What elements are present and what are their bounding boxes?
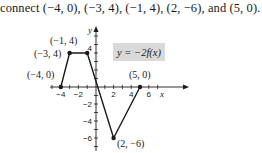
y-tick-label: −2 [83, 100, 93, 109]
point-marker [85, 51, 89, 55]
x-tick-label: 4 [129, 90, 134, 99]
x-tick-label: −4 [56, 90, 66, 99]
point-marker [59, 85, 63, 89]
x-tick-label: 6 [147, 90, 152, 99]
point-label: (5, 0) [129, 69, 151, 81]
point-label: (2, −6) [117, 138, 144, 150]
y-tick-label: −4 [83, 117, 93, 126]
x-axis-arrow-icon [183, 85, 189, 90]
y-axis-label: y [87, 25, 92, 35]
x-tick-label: −2 [74, 90, 84, 99]
y-axis-arrow-icon [94, 26, 99, 32]
function-graph: −4 −2 2 4 6 x 4 −2 −4 −6 y (−4, 0) (−3, … [0, 0, 262, 153]
equation-label: y = −2f(x) [116, 47, 161, 59]
x-tick-label: 2 [111, 90, 116, 99]
point-label: (−1, 4) [50, 35, 77, 47]
point-marker [111, 136, 115, 140]
y-tick-label: −6 [83, 134, 93, 143]
point-label: (−4, 0) [27, 69, 54, 81]
x-axis-label: x [159, 89, 164, 99]
point-label: (−3, 4) [34, 48, 61, 60]
point-marker [67, 51, 71, 55]
point-marker [138, 85, 142, 89]
